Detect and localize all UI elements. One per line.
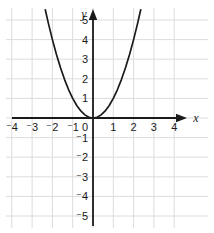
x-axis-name-label: x xyxy=(192,111,199,125)
graph-figure: ⁻4⁻3⁻2⁻11234⁻5⁻4⁻3⁻2⁻1123450 xy xyxy=(0,0,214,233)
y-tick-label: 2 xyxy=(82,73,88,85)
y-tick-label: ⁻5 xyxy=(76,210,88,222)
y-tick-label: ⁻1 xyxy=(76,132,88,144)
x-tick-label: ⁻4 xyxy=(6,121,18,133)
origin-tick-label: 0 xyxy=(82,121,88,133)
x-tick-label: 2 xyxy=(131,121,137,133)
y-tick-label: 4 xyxy=(82,34,88,46)
x-tick-label: ⁻3 xyxy=(26,121,38,133)
coordinate-plane-plot: ⁻4⁻3⁻2⁻11234⁻5⁻4⁻3⁻2⁻1123450 xy xyxy=(0,0,214,233)
x-tick-label: 1 xyxy=(110,121,116,133)
y-axis-name-label: y xyxy=(80,7,87,21)
x-tick-label: ⁻2 xyxy=(46,121,58,133)
x-tick-label: 4 xyxy=(171,121,177,133)
y-tick-label: ⁻4 xyxy=(76,190,88,202)
y-tick-label: 1 xyxy=(82,92,88,104)
y-tick-label: ⁻3 xyxy=(76,171,88,183)
x-tick-label: 3 xyxy=(151,121,157,133)
y-tick-label: 3 xyxy=(82,53,88,65)
y-tick-label: ⁻2 xyxy=(76,151,88,163)
